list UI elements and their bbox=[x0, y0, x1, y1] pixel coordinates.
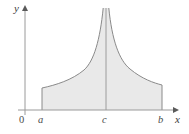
tick-label-a: a bbox=[38, 114, 43, 125]
tick-label-b: b bbox=[158, 114, 163, 125]
origin-label: 0 bbox=[19, 114, 24, 125]
x-axis-label: x bbox=[174, 113, 180, 125]
y-axis-arrowhead bbox=[22, 5, 28, 11]
tick-label-c: c bbox=[102, 114, 107, 125]
shaded-region-left bbox=[42, 8, 105, 110]
figure-container: y x 0 a c b bbox=[0, 0, 189, 134]
improper-integral-figure: y x 0 a c b bbox=[0, 0, 189, 134]
y-axis-label: y bbox=[13, 2, 19, 14]
shaded-region-right bbox=[107, 8, 162, 110]
